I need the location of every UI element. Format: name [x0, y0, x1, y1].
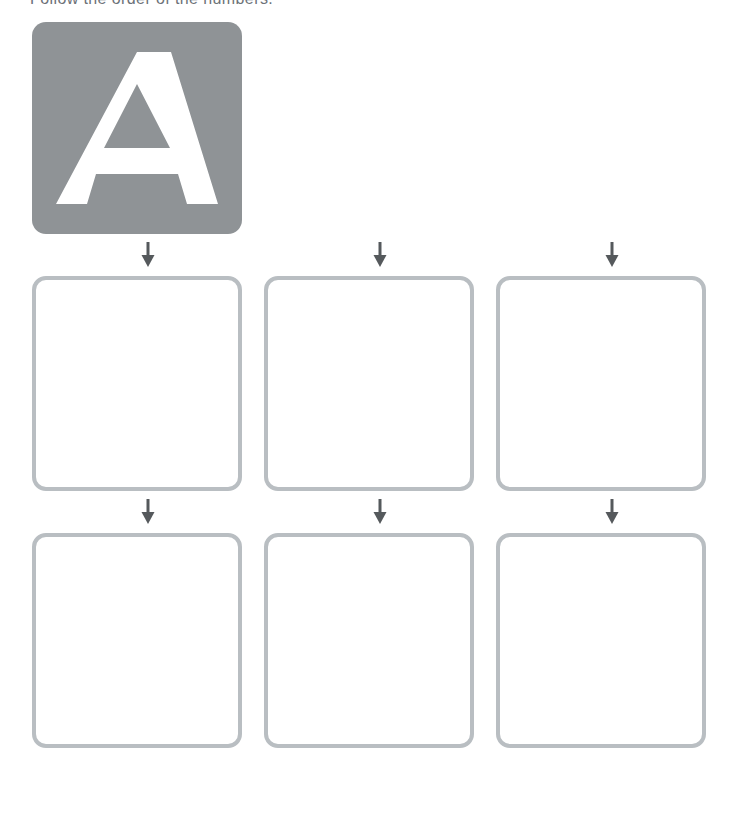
cell-b-trace	[264, 533, 496, 748]
connector-b-1	[264, 241, 496, 269]
tile-letter-b-filled[interactable]	[264, 22, 474, 234]
tile-letter-c-ghost[interactable]	[496, 276, 706, 491]
tile-letter-b-trace[interactable]	[264, 533, 474, 748]
connector-b-2	[264, 498, 496, 526]
cell-b-ghost	[264, 276, 496, 491]
connector-a-2	[32, 498, 264, 526]
connector-c-1	[496, 241, 728, 269]
cell-c-trace	[496, 533, 728, 748]
tile-letter-b-ghost[interactable]	[264, 276, 474, 491]
cell-a-ghost	[32, 276, 264, 491]
down-arrow-icon	[140, 241, 156, 269]
letter-practice-grid	[0, 22, 743, 748]
connector-c-2	[496, 498, 728, 526]
row-ghost	[0, 276, 743, 491]
down-arrow-icon	[604, 241, 620, 269]
down-arrow-icon	[372, 498, 388, 526]
letter-glyph	[56, 52, 218, 204]
cell-a-trace	[32, 533, 264, 748]
connector-row-2	[0, 491, 743, 533]
cell-b-filled	[264, 22, 496, 234]
tile-letter-a-ghost[interactable]	[32, 276, 242, 491]
row-trace	[0, 533, 743, 748]
tile-letter-c-filled[interactable]	[496, 22, 706, 234]
cell-c-ghost	[496, 276, 728, 491]
connector-row-1	[0, 234, 743, 276]
cell-a-filled	[32, 22, 264, 234]
tile-letter-a-trace[interactable]	[32, 533, 242, 748]
tile-letter-c-trace[interactable]	[496, 533, 706, 748]
page-instruction: Follow the order of the numbers.	[30, 0, 273, 8]
down-arrow-icon	[604, 498, 620, 526]
row-filled	[0, 22, 743, 234]
connector-a-1	[32, 241, 264, 269]
cell-c-filled	[496, 22, 728, 234]
tile-letter-a-filled[interactable]	[32, 22, 242, 234]
down-arrow-icon	[140, 498, 156, 526]
down-arrow-icon	[372, 241, 388, 269]
